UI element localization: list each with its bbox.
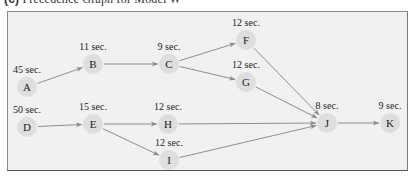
node-time-label: 11 sec. — [79, 41, 106, 52]
edge-E-I — [103, 129, 159, 156]
edge-C-G — [180, 67, 236, 80]
node-C: C9 sec. — [158, 41, 181, 74]
node-B: B11 sec. — [79, 41, 106, 74]
nodes-layer: A45 sec.B11 sec.C9 sec.F12 sec.G12 sec.D… — [13, 17, 401, 170]
node-letter: F — [243, 34, 249, 46]
node-time-label: 50 sec. — [13, 104, 41, 115]
node-letter: D — [23, 121, 31, 133]
node-D: D50 sec. — [13, 104, 41, 137]
node-letter: J — [325, 117, 330, 129]
node-time-label: 9 sec. — [158, 41, 181, 52]
node-time-label: 15 sec. — [79, 101, 107, 112]
edge-H-J — [179, 123, 316, 124]
node-time-label: 12 sec. — [154, 101, 182, 112]
node-time-label: 8 sec. — [316, 100, 339, 111]
node-G: G12 sec. — [232, 59, 260, 92]
edge-C-F — [180, 43, 236, 60]
node-letter: C — [165, 58, 172, 70]
edge-F-J — [254, 48, 320, 115]
node-time-label: 12 sec. — [155, 137, 183, 148]
node-I: I12 sec. — [155, 137, 183, 170]
node-J: J8 sec. — [316, 100, 339, 133]
node-letter: K — [386, 117, 394, 129]
node-letter: I — [167, 154, 171, 166]
node-time-label: 12 sec. — [232, 17, 260, 28]
node-K: K9 sec. — [379, 100, 402, 133]
node-letter: E — [90, 118, 97, 130]
node-letter: G — [242, 76, 250, 88]
edge-I-J — [180, 126, 317, 158]
node-time-label: 12 sec. — [232, 59, 260, 70]
node-letter: B — [89, 58, 96, 70]
precedence-graph: A45 sec.B11 sec.C9 sec.F12 sec.G12 sec.D… — [0, 0, 412, 186]
node-letter: A — [23, 81, 31, 93]
node-A: A45 sec. — [13, 64, 41, 97]
node-letter: H — [164, 118, 172, 130]
node-time-label: 45 sec. — [13, 64, 41, 75]
node-H: H12 sec. — [154, 101, 182, 134]
edge-D-E — [38, 124, 82, 126]
node-time-label: 9 sec. — [379, 100, 402, 111]
node-E: E15 sec. — [79, 101, 107, 134]
edge-A-B — [37, 68, 82, 84]
node-F: F12 sec. — [232, 17, 260, 50]
edge-G-J — [256, 87, 317, 118]
